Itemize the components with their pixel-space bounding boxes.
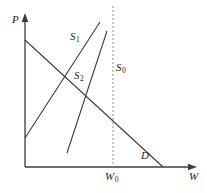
y-axis-arrowhead-icon xyxy=(22,13,29,22)
supply-curve-s2 xyxy=(67,31,107,153)
curve-label-s1: S1 xyxy=(70,31,80,44)
y-axis-label-p: P xyxy=(12,14,19,25)
line-label-s0: S0 xyxy=(116,62,126,75)
supply-curve-s1 xyxy=(25,22,100,138)
curve-label-s2-sub: 2 xyxy=(80,74,84,83)
line-label-s0-sub: 0 xyxy=(122,66,126,75)
line-label-s0-main: S xyxy=(116,61,122,73)
x-axis-tick-label-w0-sub: 0 xyxy=(115,175,119,184)
curve-label-s1-sub: 1 xyxy=(76,35,80,44)
x-axis-label-w: W xyxy=(189,171,198,182)
curve-label-s2-main: S xyxy=(74,69,80,81)
curve-label-s1-main: S xyxy=(70,30,76,42)
curve-label-d: D xyxy=(141,150,149,161)
x-axis-tick-label-w0-main: W xyxy=(105,170,114,182)
economics-supply-demand-diagram: P S1 S2 S0 D W0 W xyxy=(0,0,207,193)
demand-curve-d xyxy=(25,40,163,167)
x-axis-tick-label-w0: W0 xyxy=(105,171,118,184)
diagram-canvas xyxy=(0,0,207,193)
curve-label-s2: S2 xyxy=(74,70,84,83)
